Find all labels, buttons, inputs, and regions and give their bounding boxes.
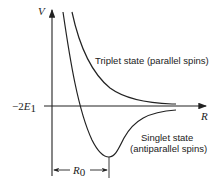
- v-axis-label: V: [38, 5, 46, 17]
- r-axis-label: R: [200, 110, 208, 122]
- potential-energy-diagram: V R −2E1 Triplet state (parallel spins) …: [0, 0, 220, 187]
- singlet-label-line2: (antiparallel spins): [130, 143, 207, 154]
- r0-label: R0: [72, 164, 86, 178]
- y-tick-label: −2E1: [12, 100, 36, 114]
- singlet-label-line1: Singlet state: [141, 132, 193, 143]
- triplet-label: Triplet state (parallel spins): [95, 55, 209, 66]
